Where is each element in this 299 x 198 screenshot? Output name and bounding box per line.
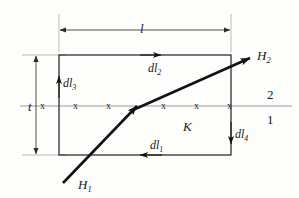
dl2-label: dl2 bbox=[148, 62, 161, 74]
dl4-label: dl4 bbox=[235, 128, 248, 140]
current-into-page-mark: x bbox=[106, 101, 111, 111]
dl2-base: dl bbox=[148, 61, 157, 75]
physics-diagram-figure: x x x x x x l t dl2 dl3 dl1 dl4 H1 H2 K … bbox=[0, 0, 299, 198]
current-into-page-mark: x bbox=[40, 101, 45, 111]
dl2-subscript: 2 bbox=[157, 68, 161, 77]
h2-base: H bbox=[257, 48, 266, 63]
current-into-page-mark: x bbox=[227, 101, 232, 111]
dl1-label: dl1 bbox=[150, 139, 163, 151]
current-into-page-mark: x bbox=[73, 101, 78, 111]
dl1-base: dl bbox=[150, 138, 159, 152]
current-into-page-mark: x bbox=[194, 101, 199, 111]
dl3-label: dl3 bbox=[63, 77, 76, 89]
dl1-subscript: 1 bbox=[159, 145, 163, 154]
h2-subscript: 2 bbox=[266, 55, 270, 65]
dl3-subscript: 3 bbox=[72, 83, 76, 92]
dl3-base: dl bbox=[63, 76, 72, 90]
dimension-guides bbox=[22, 14, 231, 155]
h1-label: H1 bbox=[78, 178, 92, 191]
current-into-page-mark: x bbox=[161, 101, 166, 111]
dl4-base: dl bbox=[235, 127, 244, 141]
region-lower-label: 1 bbox=[267, 113, 274, 126]
h1-base: H bbox=[78, 177, 87, 192]
diagram-canvas bbox=[0, 0, 299, 198]
surface-current-label: K bbox=[183, 120, 192, 133]
h1-incident-ray bbox=[63, 106, 137, 183]
h2-label: H2 bbox=[257, 49, 271, 62]
thickness-label: t bbox=[28, 100, 32, 113]
dl4-subscript: 4 bbox=[244, 134, 248, 143]
h1-subscript: 1 bbox=[87, 184, 91, 194]
length-label: l bbox=[140, 22, 144, 35]
region-upper-label: 2 bbox=[267, 88, 274, 101]
